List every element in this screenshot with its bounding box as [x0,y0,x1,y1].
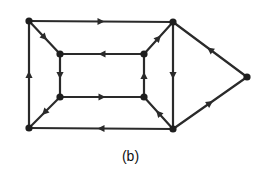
node-br [169,125,176,132]
arrow-icon [169,72,176,79]
node-tr [169,18,176,25]
arrow-icon [97,18,104,25]
node-ibl [56,93,63,100]
node-bl [25,124,32,131]
node-tl [25,17,32,24]
graph-edges [25,18,247,132]
node-itl [56,50,63,57]
arrow-icon [25,71,32,78]
arrow-icon [140,72,147,79]
arrow-icon [56,72,63,79]
arrow-icon [99,50,106,57]
node-ibr [140,93,147,100]
figure-caption: (b) [0,148,261,164]
arrow-icon [99,93,106,100]
arrow-icon [98,125,105,132]
node-itr [140,50,147,57]
node-r [243,73,250,80]
